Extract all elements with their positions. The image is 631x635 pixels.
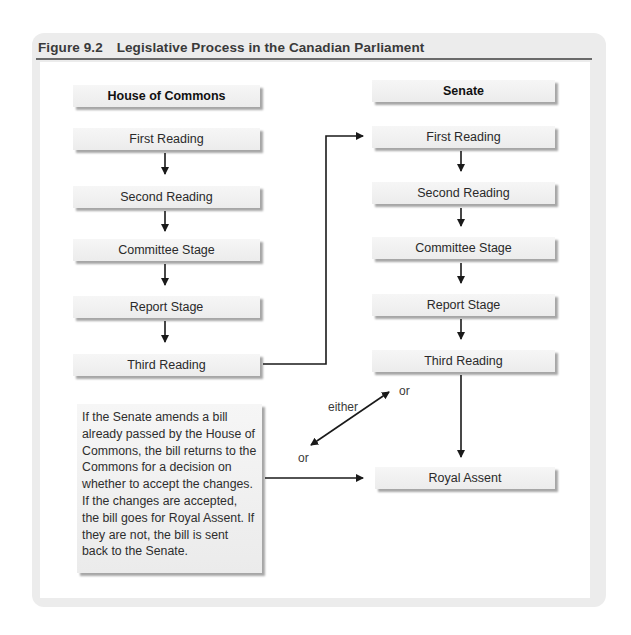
royal-assent-box: Royal Assent xyxy=(375,467,555,489)
senate-step-first-reading: First Reading xyxy=(372,126,555,148)
label-or-lower: or xyxy=(298,451,309,465)
senate-step-committee-stage: Committee Stage xyxy=(372,237,555,259)
label-or-upper: or xyxy=(399,384,410,398)
senate-step-third-reading: Third Reading xyxy=(372,350,555,372)
figure-caption: Legislative Process in the Canadian Parl… xyxy=(117,40,425,55)
commons-step-committee-stage: Committee Stage xyxy=(73,239,260,261)
senate-step-second-reading: Second Reading xyxy=(372,182,555,204)
amendment-note: If the Senate amends a bill already pass… xyxy=(77,404,262,573)
commons-step-third-reading: Third Reading xyxy=(73,354,260,376)
figure-title: Figure 9.2 Legislative Process in the Ca… xyxy=(38,40,424,55)
commons-step-second-reading: Second Reading xyxy=(73,186,260,208)
label-either: either xyxy=(328,400,358,414)
commons-header: House of Commons xyxy=(73,85,260,107)
senate-header: Senate xyxy=(372,80,555,102)
figure-number: Figure 9.2 xyxy=(38,40,103,55)
title-rule xyxy=(36,58,592,60)
commons-step-report-stage: Report Stage xyxy=(73,296,260,318)
commons-step-first-reading: First Reading xyxy=(73,128,260,150)
senate-step-report-stage: Report Stage xyxy=(372,294,555,316)
